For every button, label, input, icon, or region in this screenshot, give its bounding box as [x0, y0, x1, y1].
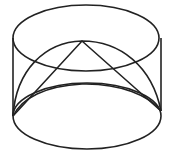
cylinder-diagram: [0, 0, 170, 152]
inner-arc: [13, 84, 161, 116]
inscribed-triangle: [13, 41, 161, 116]
semicircle-arc: [13, 41, 161, 116]
